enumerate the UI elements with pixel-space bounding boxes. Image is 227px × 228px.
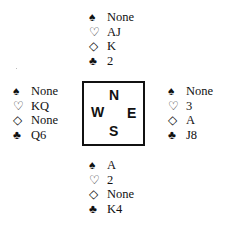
east-hearts: 3 [186, 99, 192, 114]
south-diamonds-row: ◇ None [89, 187, 134, 202]
south-hearts-row: ♡ 2 [89, 173, 134, 188]
north-hand: ♠ None ♡ AJ ◇ K ♣ 2 [89, 10, 134, 68]
spade-icon: ♠ [168, 84, 186, 99]
north-hearts-row: ♡ AJ [89, 25, 134, 40]
club-icon: ♣ [13, 128, 31, 143]
south-spades-row: ♠ A [89, 158, 134, 173]
club-icon: ♣ [168, 128, 186, 143]
spade-icon: ♠ [89, 10, 107, 25]
north-spades: None [107, 10, 134, 25]
south-clubs: K4 [107, 202, 122, 217]
south-clubs-row: ♣ K4 [89, 202, 134, 217]
west-diamonds-row: ◇ None [13, 113, 58, 128]
compass-south: S [109, 124, 118, 138]
spade-icon: ♠ [13, 84, 31, 99]
compass-east: E [127, 106, 136, 120]
south-hearts: 2 [107, 173, 113, 188]
south-diamonds: None [107, 187, 134, 202]
heart-icon: ♡ [13, 99, 31, 114]
west-spades: None [31, 84, 58, 99]
south-hand: ♠ A ♡ 2 ◇ None ♣ K4 [89, 158, 134, 216]
diamond-icon: ◇ [13, 113, 31, 128]
north-diamonds: K [107, 39, 116, 54]
east-hearts-row: ♡ 3 [168, 99, 213, 114]
south-spades: A [107, 158, 116, 173]
west-hearts: KQ [31, 99, 49, 114]
heart-icon: ♡ [168, 99, 186, 114]
compass-west: W [91, 105, 104, 119]
west-hand: ♠ None ♡ KQ ◇ None ♣ Q6 [13, 84, 58, 142]
west-clubs: Q6 [31, 128, 46, 143]
east-spades: None [186, 84, 213, 99]
diamond-icon: ◇ [89, 187, 107, 202]
west-spades-row: ♠ None [13, 84, 58, 99]
west-clubs-row: ♣ Q6 [13, 128, 58, 143]
west-diamonds: None [31, 113, 58, 128]
compass-box: N W E S [82, 81, 145, 146]
east-clubs-row: ♣ J8 [168, 128, 213, 143]
east-diamonds: A [186, 113, 195, 128]
east-spades-row: ♠ None [168, 84, 213, 99]
east-diamonds-row: ◇ A [168, 113, 213, 128]
east-clubs: J8 [186, 128, 197, 143]
club-icon: ♣ [89, 54, 107, 69]
north-hearts: AJ [107, 25, 121, 40]
heart-icon: ♡ [89, 25, 107, 40]
scan-speck [16, 68, 17, 69]
diamond-icon: ◇ [168, 113, 186, 128]
north-diamonds-row: ◇ K [89, 39, 134, 54]
diamond-icon: ◇ [89, 39, 107, 54]
north-spades-row: ♠ None [89, 10, 134, 25]
north-clubs: 2 [107, 54, 113, 69]
compass-north: N [109, 88, 119, 102]
club-icon: ♣ [89, 202, 107, 217]
east-hand: ♠ None ♡ 3 ◇ A ♣ J8 [168, 84, 213, 142]
north-clubs-row: ♣ 2 [89, 54, 134, 69]
heart-icon: ♡ [89, 173, 107, 188]
spade-icon: ♠ [89, 158, 107, 173]
west-hearts-row: ♡ KQ [13, 99, 58, 114]
